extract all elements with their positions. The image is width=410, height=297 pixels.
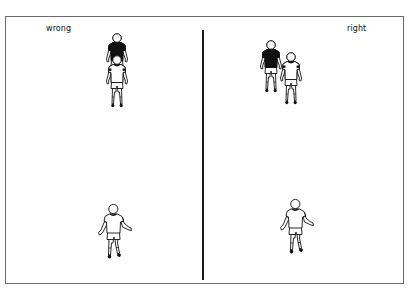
- panel-divider: [202, 30, 204, 280]
- passer-wrong: [95, 203, 133, 263]
- panel-label-right: right: [347, 24, 366, 33]
- attacker-light-wrong: [103, 55, 131, 111]
- passer-right: [277, 198, 315, 258]
- attacker-light-right: [277, 52, 305, 108]
- panel-label-wrong: wrong: [46, 24, 71, 33]
- diagram-frame: [5, 16, 404, 284]
